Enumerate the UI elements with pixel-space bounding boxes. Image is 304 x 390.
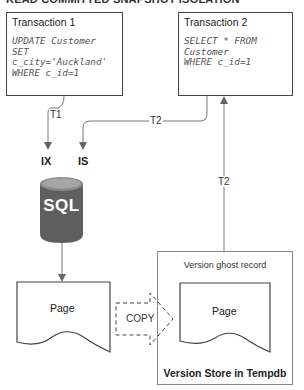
t2-return-label: T2 [217,176,231,187]
t1-label: T1 [49,109,63,120]
t1-edge [48,96,64,148]
version-page-label: Page [212,305,237,317]
page-shape [17,282,110,352]
page-label: Page [50,302,75,314]
t2-edge [83,96,207,148]
version-store-box: Version ghost record Version Store in Te… [157,251,293,385]
sql-label: SQL [40,196,83,216]
t2-label: T2 [149,115,163,126]
version-ghost-record-label: Version ghost record [158,260,292,270]
copy-label: COPY [126,313,154,324]
version-store-title: Version Store in Tempdb [158,367,292,379]
is-lock-label: IS [78,155,88,167]
ix-lock-label: IX [41,155,51,167]
